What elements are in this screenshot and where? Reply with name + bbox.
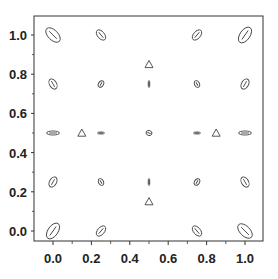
ellipse-marker: [43, 25, 63, 45]
ellipse-marker: [44, 221, 63, 241]
x-tick-label: 0.0: [44, 251, 62, 266]
x-tick-label: 1.0: [236, 251, 254, 266]
ellipse-marker: [236, 25, 255, 45]
plot-frame: [34, 16, 263, 241]
ellipse-marker: [97, 178, 105, 187]
ellipse-marker: [98, 132, 105, 134]
ellipse-marker: [47, 77, 59, 90]
y-tick-label: 0.0: [9, 224, 27, 239]
ellipse-marker: [190, 28, 203, 42]
y-axis: 0.00.20.40.60.81.0: [9, 28, 34, 239]
y-tick-label: 0.2: [9, 185, 27, 200]
scatter-plot: 0.00.20.40.60.81.0 0.00.20.40.60.81.0: [0, 0, 278, 279]
ellipse-marker: [94, 224, 107, 238]
ellipse-marker: [235, 221, 255, 241]
ellipse-marker: [94, 28, 107, 42]
y-tick-label: 0.8: [9, 67, 27, 82]
triangle-marker: [212, 129, 220, 136]
x-tick-label: 0.4: [121, 251, 140, 266]
x-tick-label: 0.8: [198, 251, 216, 266]
triangle-marker: [145, 60, 153, 67]
ellipse-marker: [193, 178, 201, 187]
y-tick-label: 1.0: [9, 28, 27, 43]
x-tick-label: 0.2: [82, 251, 100, 266]
ellipse-marker: [47, 131, 60, 135]
ellipse-marker: [193, 80, 201, 89]
ellipse-marker: [148, 179, 150, 186]
ellipse-marker: [145, 130, 152, 137]
triangle-marker: [78, 129, 86, 136]
ellipse-marker: [47, 175, 59, 188]
x-axis: 0.00.20.40.60.81.0: [44, 241, 254, 266]
y-tick-label: 0.6: [9, 106, 27, 121]
ellipse-marker: [239, 175, 251, 188]
ellipse-marker: [194, 132, 201, 134]
ellipse-marker: [97, 80, 105, 89]
ellipse-marker: [239, 77, 251, 90]
y-tick-label: 0.4: [9, 146, 28, 161]
data-markers: [43, 25, 255, 241]
ellipse-marker: [148, 81, 150, 88]
ellipse-marker: [239, 131, 252, 135]
ellipse-marker: [190, 224, 203, 238]
triangle-marker: [145, 198, 153, 205]
x-tick-label: 0.6: [159, 251, 177, 266]
